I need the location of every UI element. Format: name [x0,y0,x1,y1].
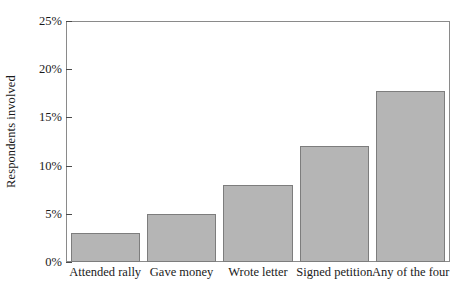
y-axis-tick-label: 15% [20,111,62,124]
y-axis-tick-mark [66,21,72,22]
bar [376,91,445,262]
x-axis-tick-label: Any of the four [372,266,449,280]
bar [147,214,216,262]
x-axis-tick-label: Wrote letter [228,266,288,280]
y-axis-title: Respondents involved [0,0,22,262]
y-axis-tick-mark [66,117,72,118]
y-axis-tick-labels: 0%5%10%15%20%25% [20,0,65,301]
bar [300,146,369,262]
y-axis-tick-label: 5% [20,208,62,221]
bar-chart: Respondents involved 0%5%10%15%20%25% At… [0,0,459,301]
bar [71,233,140,262]
y-axis-tick-mark [66,166,72,167]
y-axis-tick-label: 0% [20,256,62,269]
y-axis-tick-label: 25% [20,15,62,28]
y-axis-tick-mark [66,214,72,215]
bars-group [67,22,449,262]
x-axis-tick-labels: Attended rallyGave moneyWrote letterSign… [67,266,449,290]
y-axis-tick-label: 10% [20,159,62,172]
y-axis-tick-label: 20% [20,63,62,76]
x-axis-tick-label: Gave money [150,266,214,280]
x-axis-tick-label: Signed petition [296,266,372,280]
y-axis-tick-mark [66,262,72,263]
y-axis-title-text: Respondents involved [4,75,19,188]
y-axis-tick-mark [66,69,72,70]
x-axis-tick-label: Attended rally [69,266,141,280]
bar [223,185,292,262]
